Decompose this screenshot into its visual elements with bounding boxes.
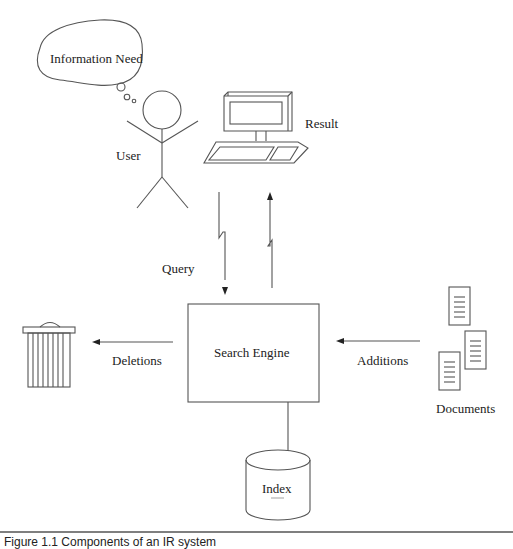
deletions-arrowhead [92, 339, 100, 345]
thought-bubble-medium [124, 94, 130, 100]
computer-icon [204, 92, 308, 163]
information-need-label: Information Need [50, 52, 143, 65]
additions-arrowhead [336, 338, 344, 344]
additions-label: Additions [357, 354, 408, 367]
thought-bubble-large [117, 83, 125, 91]
result-label: Result [305, 117, 338, 130]
result-arrowhead [267, 192, 273, 200]
query-arrow [219, 192, 225, 280]
result-arrow [268, 200, 272, 288]
thought-bubble-small [132, 99, 136, 103]
index-label: Index [262, 482, 292, 495]
documents-icon [439, 287, 486, 390]
user-label: User [116, 149, 141, 162]
deletions-label: Deletions [112, 354, 162, 367]
query-arrowhead [222, 287, 228, 295]
trash-can-icon [23, 323, 75, 388]
query-label: Query [162, 262, 195, 275]
documents-label: Documents [436, 402, 495, 415]
search-engine-label: Search Engine [214, 346, 289, 359]
figure-caption: Figure 1.1 Components of an IR system [4, 535, 216, 549]
